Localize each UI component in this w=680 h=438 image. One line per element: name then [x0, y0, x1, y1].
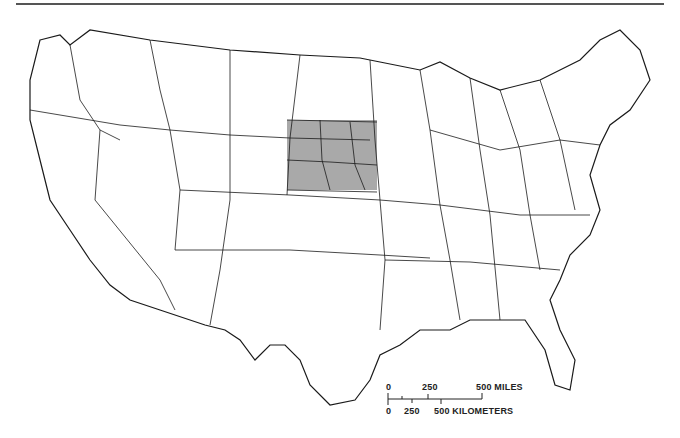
scale-km-250: 250 — [404, 406, 420, 416]
scale-km-0: 0 — [386, 406, 391, 416]
us-outline — [30, 30, 650, 405]
scale-miles-500: 500 MILES — [476, 382, 523, 392]
us-map — [0, 0, 680, 438]
scale-km-500: 500 KILOMETERS — [434, 406, 513, 416]
scale-miles-250: 250 — [422, 382, 438, 392]
scale-miles-0: 0 — [386, 382, 391, 392]
scale-bar: 0 250 500 MILES 0 250 500 KILOMETERS — [386, 384, 586, 424]
shaded-study-area — [287, 120, 377, 190]
